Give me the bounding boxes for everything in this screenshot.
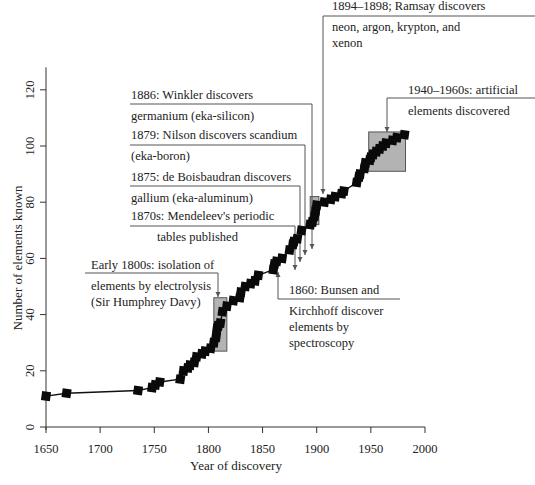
annotation-line: (Sir Humphrey Davy) [91,294,214,310]
annotation-line: 1870s: Mendeleev's periodic [131,208,274,224]
data-point-marker [41,391,51,401]
annotation-ramsay: 1894–1898; Ramsay discovers neon, argon,… [332,0,485,51]
annotation-winkler: 1886: Winkler discovers germanium (eka-s… [131,87,254,124]
annotation-line: elements by [289,319,384,335]
x-tick-label: 1800 [196,442,221,456]
arrowhead-icon [310,244,315,249]
arrowhead-icon [216,292,221,297]
annotation-line: 1886: Winkler discovers [131,87,254,103]
annotation-line: Kirchhoff discover [289,303,384,319]
data-point-marker [339,186,349,196]
annotation-davy: Early 1800s: isolation of elements by el… [91,257,214,310]
annotation-line: tables published [131,229,274,245]
annotation-artificial: 1940–1960s: artificial elements discover… [408,82,518,119]
data-point-marker [292,234,302,244]
y-tick-label: 60 [23,252,37,265]
data-point-marker [277,253,287,263]
annotation-boisbaudran: 1875: de Boisbaudran discovers gallium (… [131,169,291,206]
annotation-mendeleev: 1870s: Mendeleev's periodic tables publi… [131,208,274,245]
annotation-nilson: 1879: Nilson discovers scandium (eka-bor… [131,127,297,164]
annotation-bunsen: 1860: Bunsen and Kirchhoff discover elem… [289,282,384,351]
arrowhead-icon [303,250,308,255]
y-tick-label: 40 [23,308,37,321]
data-point-marker [133,385,143,395]
y-tick-label: 20 [23,365,37,378]
annotation-line: xenon [332,35,485,51]
x-tick-label: 1650 [34,442,59,456]
annotation-line: Early 1800s: isolation of [91,257,214,273]
annotation-line: gallium (eka-aluminum) [131,190,291,206]
annotation-line: neon, argon, krypton, and [332,19,485,35]
annotation-line: spectroscopy [289,335,384,351]
annotation-line: 1875: de Boisbaudran discovers [131,169,291,185]
data-point-marker [215,318,225,328]
data-point-marker [155,377,165,387]
data-point-marker [253,270,263,280]
x-tick-label: 1700 [88,442,113,456]
annotation-line: elements by electrolysis [91,278,214,294]
y-axis-title: Number of elements known [10,185,25,330]
x-tick-label: 1900 [304,442,329,456]
x-tick-label: 2000 [413,442,438,456]
annotation-line: elements discovered [408,103,518,119]
x-tick-label: 1850 [250,442,275,456]
annotation-line: 1894–1898; Ramsay discovers [332,0,485,14]
arrowhead-icon [298,257,303,262]
data-point-marker [61,388,71,398]
y-tick-label: 100 [23,137,37,156]
data-point-marker [175,374,185,384]
annotation-line: 1860: Bunsen and [289,282,384,298]
data-point-marker [399,130,409,140]
y-tick-label: 0 [23,424,37,430]
annotation-line: 1940–1960s: artificial [408,82,518,98]
annotation-line: (eka-boron) [131,148,297,164]
data-point-marker [296,225,306,235]
arrowhead-icon [293,265,298,270]
x-axis-title: Year of discovery [190,458,282,473]
annotation-line: 1879: Nilson discovers scandium [131,127,297,143]
axes: 1650170017501800185019001950200002040608… [23,67,438,456]
y-tick-label: 80 [23,196,37,209]
y-tick-label: 120 [23,80,37,99]
x-tick-label: 1950 [358,442,383,456]
arrowhead-icon [321,189,326,194]
annotation-line: germanium (eka-silicon) [131,108,254,124]
x-tick-label: 1750 [142,442,167,456]
arrowhead-icon [385,127,390,132]
